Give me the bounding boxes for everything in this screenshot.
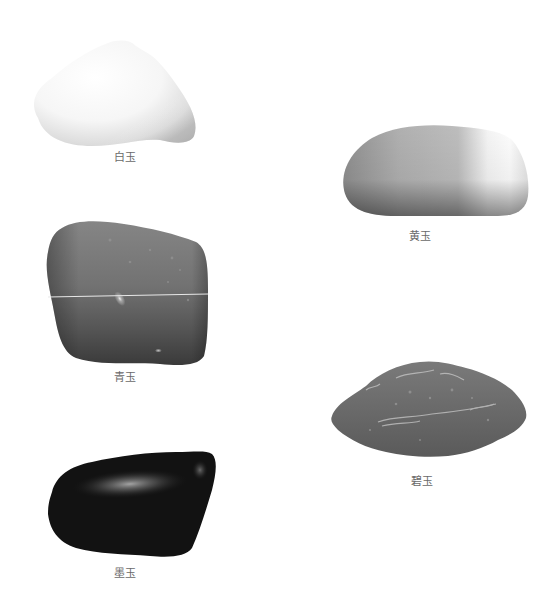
white-jade-label: 白玉 bbox=[114, 152, 136, 164]
green-jade-stone-image bbox=[0, 0, 558, 598]
specimen-black-jade bbox=[0, 0, 558, 598]
green-jade-label: 碧玉 bbox=[411, 476, 433, 488]
specimen-white-jade bbox=[0, 0, 558, 598]
celadon-jade-stone-image bbox=[0, 0, 558, 598]
black-jade-shape bbox=[48, 452, 216, 557]
white-jade-shape bbox=[34, 41, 195, 146]
scan-line bbox=[48, 294, 208, 297]
celadon-jade-label: 青玉 bbox=[114, 372, 136, 384]
yellow-jade-shape bbox=[343, 125, 528, 216]
yellow-jade-label: 黄玉 bbox=[409, 231, 431, 243]
white-jade-stone-image bbox=[0, 0, 558, 598]
specimen-celadon-jade bbox=[0, 0, 558, 598]
celadon-jade-shape bbox=[47, 221, 208, 365]
specimen-green-jade bbox=[0, 0, 558, 598]
green-jade-shape bbox=[331, 361, 526, 456]
yellow-jade-stone-image bbox=[0, 0, 558, 598]
specimen-yellow-jade bbox=[0, 0, 558, 598]
black-jade-label: 墨玉 bbox=[114, 568, 136, 580]
black-jade-stone-image bbox=[0, 0, 558, 598]
